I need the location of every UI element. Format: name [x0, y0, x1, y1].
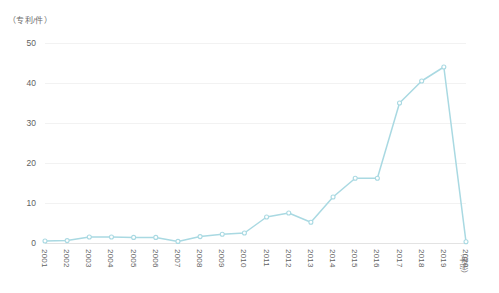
data-point-marker	[109, 235, 113, 239]
data-point-marker	[65, 239, 69, 243]
data-point-marker	[132, 235, 136, 239]
data-point-marker	[43, 239, 47, 243]
series-polyline	[45, 67, 466, 242]
data-point-marker	[353, 176, 357, 180]
data-point-marker	[220, 232, 224, 236]
data-point-marker	[287, 211, 291, 215]
plot-area: 01020304050 2001200220032004200520062007…	[0, 0, 499, 293]
data-point-marker	[242, 231, 246, 235]
line-chart: （专利/件） （年份） 01020304050 2001200220032004…	[0, 0, 499, 293]
data-point-marker	[420, 79, 424, 83]
data-point-marker	[309, 220, 313, 224]
data-point-marker	[265, 215, 269, 219]
data-point-marker	[331, 195, 335, 199]
data-point-marker	[442, 65, 446, 69]
data-point-marker	[375, 176, 379, 180]
data-series-line	[0, 0, 499, 293]
data-point-marker	[176, 239, 180, 243]
data-point-marker	[398, 101, 402, 105]
data-point-marker	[154, 235, 158, 239]
data-point-marker	[87, 235, 91, 239]
data-point-marker	[464, 240, 468, 244]
data-point-marker	[198, 235, 202, 239]
